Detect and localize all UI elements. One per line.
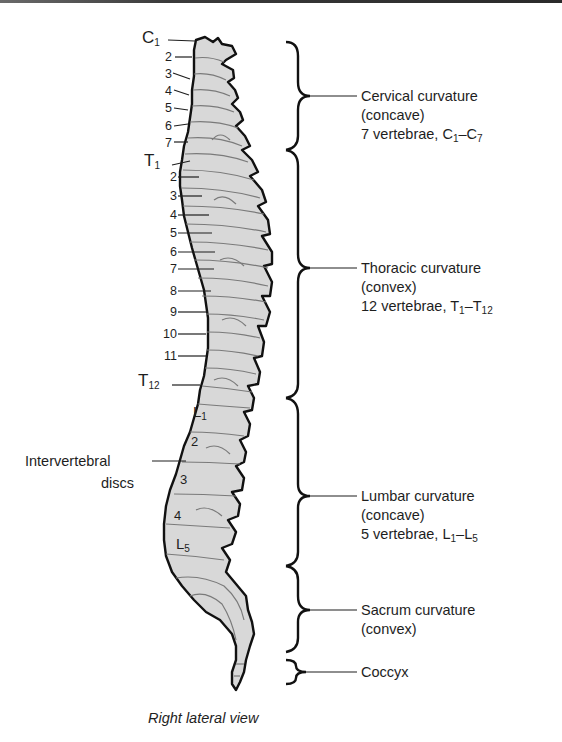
label-t11: 11 [155,349,177,363]
label-l4: 4 [174,508,181,524]
label-t12: T12 [138,372,160,395]
label-c3: 3 [150,67,172,81]
label-c6: 6 [150,119,172,133]
label-t6: 6 [155,245,177,259]
label-c2: 2 [150,50,172,64]
region-sacrum: Sacrum curvature (convex) [361,601,475,639]
region-cervical: Cervical curvature (concave) 7 vertebrae… [361,87,483,148]
label-t3: 3 [155,189,177,203]
label-c5: 5 [150,101,172,115]
label-t5: 5 [155,226,177,240]
label-discs: discs [101,474,134,493]
lumbar-brace-icon [286,398,310,566]
label-t10: 10 [155,327,177,341]
region-thoracic: Thoracic curvature (convex) 12 vertebrae… [361,259,493,320]
region-lumbar: Lumbar curvature (concave) 5 vertebrae, … [361,487,478,548]
region-coccyx: Coccyx [361,663,409,682]
coccyx-brace-icon [286,660,306,684]
label-t2: 2 [155,170,177,184]
label-t7: 7 [155,262,177,276]
label-l3: 3 [180,472,187,488]
label-l2: 2 [191,434,198,450]
label-l5: L5 [176,536,190,557]
label-intervertebral: Intervertebral [25,452,110,471]
label-t4: 4 [155,208,177,222]
brace-icons [286,42,310,684]
thoracic-brace-icon [286,150,310,398]
cervical-brace-icon [286,42,310,150]
sacrum-brace-icon [286,566,310,652]
label-t9: 9 [155,305,177,319]
label-c7: 7 [150,136,172,150]
figure-caption: Right lateral view [148,710,258,726]
label-c1: C1 [142,29,160,52]
label-t8: 8 [155,284,177,298]
label-c4: 4 [150,84,172,98]
label-l1: L1 [193,404,207,425]
region-leader-lines [306,96,357,672]
